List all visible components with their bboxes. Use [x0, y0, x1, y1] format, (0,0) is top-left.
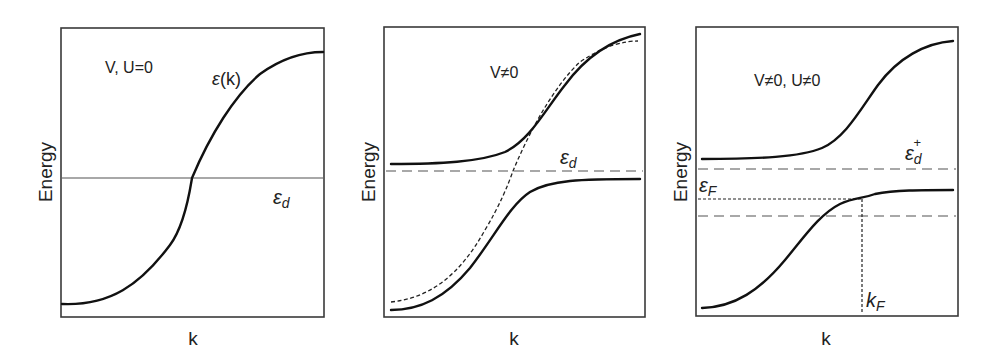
panel-1-condition-label: V, U=0 — [105, 59, 153, 76]
panel-2-level-label: εd — [560, 146, 578, 171]
panel-3-lower-band — [702, 190, 953, 308]
band-diagram-figure: V, U=0 ε(k) εd Energy k V≠0 εd Energy k — [0, 0, 992, 360]
panel-3-condition-label: V≠0, U≠0 — [754, 72, 821, 89]
panel-2: V≠0 εd Energy k — [358, 27, 645, 349]
panel-1-x-axis-label: k — [188, 328, 198, 349]
panel-2-x-axis-label: k — [509, 328, 519, 349]
panel-2-y-axis-label: Energy — [358, 141, 379, 202]
panel-1-frame — [61, 28, 324, 317]
panel-3-upper-level-label: εd+ — [905, 135, 923, 167]
panel-2-condition-label: V≠0 — [490, 64, 518, 81]
panel-1: V, U=0 ε(k) εd Energy k — [35, 28, 324, 349]
panel-3-x-axis-label: k — [821, 328, 831, 349]
panel-3: V≠0, U≠0 εd+ εF kF Energy k — [670, 27, 958, 349]
panel-3-frame — [696, 27, 958, 316]
panel-1-band-label: ε(k) — [212, 69, 241, 89]
panel-1-y-axis-label: Energy — [35, 141, 56, 202]
panel-3-fermi-wavevector-label: kF — [866, 289, 886, 314]
panel-3-fermi-energy-label: εF — [699, 174, 718, 199]
panel-2-upper-band — [391, 34, 640, 164]
panel-3-y-axis-label: Energy — [670, 141, 691, 202]
panel-1-level-label: εd — [273, 186, 291, 211]
